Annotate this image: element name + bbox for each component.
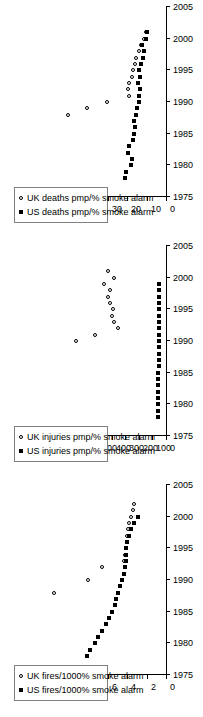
- legend-label: US fires/1000% smoke alarm: [27, 685, 144, 695]
- data-point-uk: [108, 288, 112, 292]
- data-point-us: [157, 307, 161, 311]
- data-point-us: [156, 402, 160, 406]
- y-axis-tick-label: 2: [151, 683, 156, 692]
- x-axis-tick-label: 1985: [173, 369, 193, 378]
- data-point-us: [141, 56, 145, 60]
- x-axis-tick-label: 1990: [173, 337, 193, 346]
- x-axis-tick: [166, 38, 170, 39]
- data-point-us: [127, 534, 131, 538]
- data-point-uk: [52, 591, 56, 595]
- data-point-us: [124, 553, 128, 557]
- data-point-us: [137, 94, 141, 98]
- data-point-us: [157, 288, 161, 292]
- data-point-us: [93, 641, 97, 645]
- legend-item: UK deaths pmp/% smoke alarm: [19, 191, 103, 205]
- legend-marker-us: [19, 210, 23, 214]
- data-point-us: [120, 578, 124, 582]
- y-axis-tick: [147, 675, 148, 679]
- data-point-us: [156, 390, 160, 394]
- data-point-us: [157, 326, 161, 330]
- legend-label: UK injuries pmp/% smoke alarm: [27, 432, 155, 442]
- panel-rotation-wrapper: 1975198019851990199520002005010203040506…: [0, 0, 203, 239]
- data-point-uk: [66, 113, 70, 117]
- x-axis-tick: [166, 484, 170, 485]
- data-point-us: [129, 163, 133, 167]
- data-point-uk: [112, 320, 116, 324]
- data-point-uk: [102, 282, 106, 286]
- x-axis-tick: [166, 308, 170, 309]
- legend-marker-us: [19, 688, 23, 692]
- data-point-us: [132, 119, 136, 123]
- x-axis-tick-label: 2000: [173, 274, 193, 283]
- data-point-uk: [86, 578, 90, 582]
- data-point-uk: [127, 81, 131, 85]
- data-point-us: [157, 352, 161, 356]
- data-point-us: [157, 358, 161, 362]
- legend-marker-uk: [19, 674, 23, 678]
- data-point-uk: [130, 75, 134, 79]
- x-axis-tick-label: 1995: [173, 544, 193, 553]
- data-point-us: [133, 125, 137, 129]
- y-axis-tick-label: 100: [156, 444, 171, 453]
- x-axis-tick-label: 2000: [173, 35, 193, 44]
- data-point-us: [142, 49, 146, 53]
- chart-panel-deaths: 1975198019851990199520002005010203040506…: [0, 0, 203, 239]
- y-axis-tick-label: 0: [170, 205, 175, 214]
- data-point-us: [127, 144, 131, 148]
- data-point-us: [122, 572, 126, 576]
- data-point-us: [132, 132, 136, 136]
- data-point-us: [123, 565, 127, 569]
- legend-item: US deaths pmp/% smoke alarm: [19, 205, 103, 219]
- data-point-us: [96, 635, 100, 639]
- data-point-us: [126, 151, 130, 155]
- data-point-uk: [134, 56, 138, 60]
- data-point-us: [156, 383, 160, 387]
- x-axis-line: [166, 485, 167, 675]
- data-point-uk: [110, 314, 114, 318]
- x-axis-line: [166, 7, 167, 197]
- data-point-us: [137, 100, 141, 104]
- data-point-uk: [111, 307, 115, 311]
- x-axis-tick: [166, 340, 170, 341]
- plot-area: 1975198019851990199520002005010203040506…: [0, 0, 203, 239]
- x-axis-tick-label: 2005: [173, 481, 193, 490]
- legend-item: UK injuries pmp/% smoke alarm: [19, 430, 103, 444]
- data-point-us: [104, 622, 108, 626]
- data-point-us: [157, 345, 161, 349]
- x-axis-tick: [166, 516, 170, 517]
- data-point-us: [145, 30, 149, 34]
- x-axis-tick: [166, 69, 170, 70]
- legend-item: US injuries pmp/% smoke alarm: [19, 444, 103, 458]
- x-axis-tick-label: 2000: [173, 513, 193, 522]
- x-axis-line: [166, 246, 167, 436]
- data-point-us: [156, 371, 160, 375]
- data-point-us: [138, 75, 142, 79]
- data-point-uk: [74, 339, 78, 343]
- legend-label: US injuries pmp/% smoke alarm: [27, 446, 155, 456]
- x-axis-tick: [166, 277, 170, 278]
- data-point-uk: [106, 295, 110, 299]
- y-axis-tick-label: 0: [170, 683, 175, 692]
- data-point-us: [118, 584, 122, 588]
- data-point-us: [157, 320, 161, 324]
- x-axis-tick-label: 1975: [173, 432, 193, 441]
- x-axis-tick-label: 1975: [173, 671, 193, 680]
- x-axis-tick: [166, 101, 170, 102]
- legend-marker-uk: [19, 435, 23, 439]
- data-point-us: [138, 87, 142, 91]
- data-point-us: [157, 301, 161, 305]
- x-axis-tick: [166, 6, 170, 7]
- data-point-us: [110, 610, 114, 614]
- y-axis-tick: [166, 197, 167, 201]
- data-point-us: [157, 314, 161, 318]
- data-point-us: [88, 648, 92, 652]
- x-axis-tick: [166, 164, 170, 165]
- data-point-us: [157, 339, 161, 343]
- data-point-us: [139, 62, 143, 66]
- chart-panel-fires: 197519801985199019952000200502468101214U…: [0, 478, 203, 717]
- data-point-uk: [131, 68, 135, 72]
- data-point-us: [114, 597, 118, 601]
- data-point-uk: [116, 326, 120, 330]
- data-point-uk: [93, 333, 97, 337]
- plot-area: 1975198019851990199520002005010020030040…: [0, 239, 203, 478]
